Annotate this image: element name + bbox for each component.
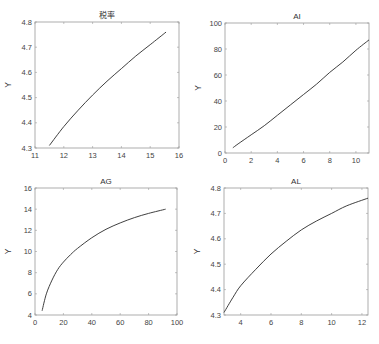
x-tick-label: 80 — [144, 318, 152, 327]
x-tick-label: 11 — [31, 151, 39, 160]
panel-title: AL — [291, 177, 301, 186]
y-axis-label: Y — [3, 82, 13, 88]
y-tick-label: 40 — [214, 97, 222, 106]
x-tick-label: 6 — [269, 318, 273, 327]
data-line — [233, 40, 369, 148]
panel-3: 02040608010046810121416AGY — [3, 177, 183, 327]
y-tick-label: 100 — [209, 19, 222, 28]
x-tick-label: 12 — [358, 318, 366, 327]
x-tick-label: 14 — [117, 151, 125, 160]
y-tick-label: 4.7 — [22, 43, 32, 52]
data-line — [49, 32, 166, 145]
figure-caption — [30, 333, 350, 339]
y-tick-label: 4.5 — [211, 260, 221, 269]
plot-frame — [225, 23, 369, 153]
plot-frame — [35, 188, 177, 315]
y-tick-label: 6 — [28, 289, 32, 298]
y-tick-label: 14 — [24, 205, 32, 214]
panel-2: 0246810020406080100AIY — [193, 12, 369, 165]
y-tick-label: 10 — [24, 247, 32, 256]
y-axis-label: Y — [3, 248, 13, 254]
y-tick-label: 80 — [214, 45, 222, 54]
y-axis-label: Y — [192, 248, 202, 254]
y-tick-label: 60 — [214, 71, 222, 80]
y-tick-label: 12 — [24, 226, 32, 235]
y-tick-label: 16 — [24, 184, 32, 193]
y-tick-label: 4.4 — [22, 118, 32, 127]
x-tick-label: 10 — [327, 318, 335, 327]
x-tick-label: 2 — [249, 156, 253, 165]
x-tick-label: 13 — [88, 151, 96, 160]
x-tick-label: 4 — [239, 318, 243, 327]
x-tick-label: 0 — [33, 318, 37, 327]
x-tick-label: 0 — [223, 156, 227, 165]
x-tick-label: 20 — [59, 318, 67, 327]
y-tick-label: 4.8 — [211, 184, 221, 193]
panel-title: AI — [293, 12, 301, 21]
x-tick-label: 4 — [275, 156, 279, 165]
y-tick-label: 4.5 — [22, 93, 32, 102]
y-tick-label: 4 — [28, 311, 32, 320]
panel-title: AG — [100, 177, 112, 186]
x-tick-label: 6 — [301, 156, 305, 165]
data-line — [224, 198, 368, 312]
x-tick-label: 12 — [60, 151, 68, 160]
x-tick-label: 60 — [116, 318, 124, 327]
plot-frame — [35, 22, 179, 148]
y-tick-label: 20 — [214, 123, 222, 132]
y-tick-label: 8 — [28, 268, 32, 277]
y-tick-label: 4.6 — [22, 68, 32, 77]
panel-1: 1112131415164.34.44.54.64.74.8税率Y — [3, 10, 183, 160]
x-tick-label: 10 — [352, 156, 360, 165]
panel-title: 税率 — [99, 10, 115, 20]
y-tick-label: 4.3 — [211, 311, 221, 320]
y-tick-label: 4.3 — [22, 144, 32, 153]
y-tick-label: 4.6 — [211, 234, 221, 243]
chart-figure: 1112131415164.34.44.54.64.74.8税率Y0246810… — [0, 0, 379, 344]
y-tick-label: 4.4 — [211, 285, 221, 294]
data-line — [42, 209, 166, 311]
x-tick-label: 100 — [171, 318, 184, 327]
y-tick-label: 0 — [218, 149, 222, 158]
plot-frame — [224, 188, 368, 315]
x-tick-label: 40 — [88, 318, 96, 327]
x-tick-label: 8 — [328, 156, 332, 165]
x-tick-label: 16 — [175, 151, 183, 160]
y-tick-label: 4.7 — [211, 209, 221, 218]
x-tick-label: 15 — [146, 151, 154, 160]
panel-4: 46810124.34.44.54.64.74.8ALY — [192, 177, 368, 327]
y-tick-label: 4.8 — [22, 18, 32, 27]
x-tick-label: 8 — [299, 318, 303, 327]
y-axis-label: Y — [193, 85, 203, 91]
